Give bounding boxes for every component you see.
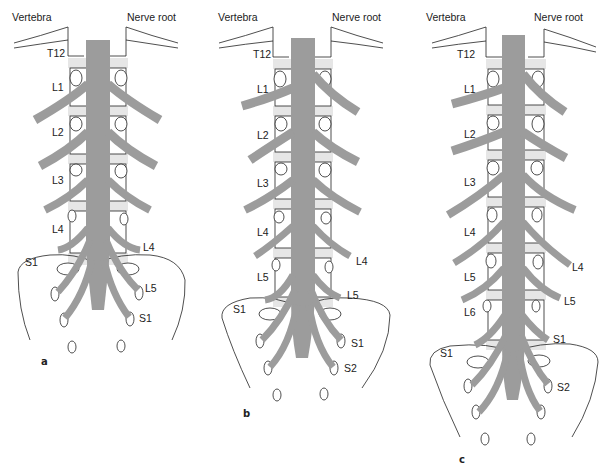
sacral-foramen (527, 433, 535, 445)
sacral-foramen (68, 341, 76, 353)
foramen (274, 211, 284, 223)
foramen (532, 116, 544, 132)
foramen (487, 161, 499, 175)
t12-label: T12 (47, 47, 65, 59)
t12-right-outline (110, 27, 178, 56)
panel-c: Vertebra Nerve root T12 (426, 11, 598, 465)
foramen (275, 163, 287, 175)
foramen (70, 70, 82, 86)
nerve-root-label: S1 (553, 333, 566, 345)
foramen (68, 210, 76, 222)
foramen (487, 71, 499, 87)
foramen (533, 255, 543, 269)
nerve-root-label: S2 (344, 362, 357, 374)
foramen (321, 212, 331, 224)
vertebra-header-label: Vertebra (218, 11, 258, 23)
t12-right-outline (315, 27, 383, 57)
t12-left-edge (219, 41, 273, 48)
vertebra-label: L1 (257, 83, 269, 95)
spine-diagram: Vertebra Nerve root T12 (0, 0, 612, 470)
vertebra-label: L4 (464, 226, 476, 238)
vertebra-header-label: Vertebra (12, 11, 52, 23)
nerve-root-header-label: Nerve root (127, 11, 176, 23)
panel-label-c: c (459, 454, 465, 465)
vertebra-label: L5 (464, 271, 476, 283)
nerve-root-label: S2 (557, 381, 570, 393)
vertebra-label: L2 (257, 129, 269, 141)
foramen (531, 161, 543, 175)
nerve-root-label: L4 (143, 241, 155, 253)
nerve-root-label: L5 (347, 289, 359, 301)
t12-right-edge (544, 42, 596, 52)
nerve-root-header-label: Nerve root (332, 11, 381, 23)
t12-right-outline (528, 29, 596, 57)
sacral-foramen (464, 379, 472, 393)
vertebra-header-label: Vertebra (426, 11, 466, 23)
nerve-root-label: L4 (356, 255, 368, 267)
vertebra-label: L5 (257, 271, 269, 283)
foramen (319, 163, 331, 177)
foramen (274, 71, 286, 87)
nerve-root-label: S1 (139, 312, 152, 324)
sacrum-label: S1 (233, 303, 246, 315)
panel-b: Vertebra Nerve root T12 (218, 11, 390, 419)
panel-label-a: a (41, 356, 48, 367)
foramen (115, 70, 127, 86)
t12-left-edge (432, 41, 486, 48)
vertebra-label: L3 (52, 174, 64, 186)
nerve-root-label: L5 (564, 295, 576, 307)
sacral-foramen (117, 340, 125, 352)
vertebra-label: L6 (464, 306, 476, 318)
nerve-root-label: S1 (351, 337, 364, 349)
foramen (120, 213, 128, 225)
foramen (115, 164, 127, 178)
foramen (319, 117, 331, 131)
sacral-foramen (481, 433, 489, 445)
foramen (487, 116, 499, 130)
foramen (532, 208, 542, 222)
foramen (272, 259, 280, 271)
sacrum-label: S1 (25, 256, 38, 268)
t12-label: T12 (253, 48, 271, 60)
vertebra-label: L3 (257, 177, 269, 189)
foramen (486, 254, 496, 268)
t12-label: T12 (457, 48, 475, 60)
foramen (70, 117, 82, 131)
nerve-root-label: L4 (572, 261, 584, 273)
vertebra-label: L4 (52, 223, 64, 235)
vertebra-label: L1 (464, 83, 476, 95)
vertebra-label: L2 (464, 128, 476, 140)
vertebra-label: L3 (464, 176, 476, 188)
foramen (70, 164, 82, 176)
panel-a: Vertebra Nerve root T12 (12, 11, 185, 367)
vertebra-label: L2 (52, 126, 64, 138)
vertebra-label: L4 (257, 226, 269, 238)
sacral-foramen (273, 389, 281, 401)
foramen (532, 300, 540, 312)
t12-right-edge (331, 41, 383, 48)
panel-label-b: b (243, 408, 250, 419)
vertebra-label: L1 (52, 81, 64, 93)
foramen (325, 261, 333, 273)
nerve-root-label: L5 (145, 282, 157, 294)
sacrum-label: S1 (440, 347, 453, 359)
foramen (115, 117, 127, 131)
foramen (483, 300, 491, 312)
foramen (487, 208, 497, 222)
foramen (275, 117, 287, 131)
sacral-foramen (320, 388, 328, 400)
nerve-root-header-label: Nerve root (534, 11, 583, 23)
